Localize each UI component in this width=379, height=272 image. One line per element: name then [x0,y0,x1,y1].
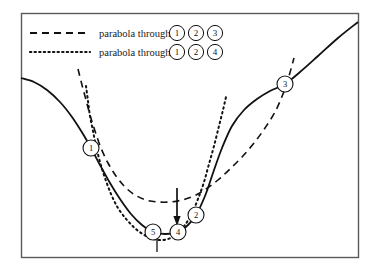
point-marker-1: 1 [83,140,99,156]
legend-point-1: 1 [169,44,184,59]
legend-points-dotted: 124 [169,44,222,59]
figure-root: 12345 parabola through 123 parabola thro… [0,0,379,272]
legend-point-label-2: 2 [194,28,199,38]
point-marker-5: 5 [145,224,161,240]
legend-points-dashed: 123 [169,25,222,40]
legend-point-2: 2 [188,25,203,40]
legend-point-label-1: 1 [175,28,180,38]
point-marker-2: 2 [188,207,204,223]
figure-background [0,0,379,272]
point-marker-3: 3 [277,76,293,92]
legend-point-4: 4 [207,44,222,59]
legend-point-label-1: 1 [175,47,180,57]
point-marker-4: 4 [170,224,186,240]
marker-label-5: 5 [151,227,155,237]
legend-point-3: 3 [207,25,222,40]
marker-label-2: 2 [194,210,198,220]
legend-point-label-2: 2 [194,47,199,57]
legend-point-label-4: 4 [213,47,218,57]
legend-label-dashed: parabola through [99,28,171,39]
figure-canvas: 12345 parabola through 123 parabola thro… [0,0,379,272]
marker-label-3: 3 [283,79,287,89]
legend-point-1: 1 [169,25,184,40]
legend-point-2: 2 [188,44,203,59]
legend-label-dotted: parabola through [99,47,171,58]
marker-label-1: 1 [89,143,93,153]
legend-point-label-3: 3 [213,28,218,38]
